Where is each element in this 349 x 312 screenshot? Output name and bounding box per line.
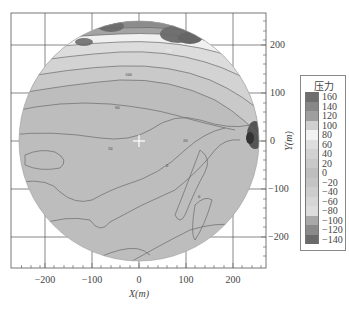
legend-swatch: [305, 130, 319, 140]
legend-swatch: [305, 216, 319, 226]
legend-item: −140: [305, 235, 345, 246]
legend-swatch: [305, 235, 319, 245]
legend-swatch: [305, 92, 319, 102]
svg-text:−200: −200: [268, 231, 289, 242]
legend-swatch: [305, 178, 319, 188]
legend-label: −140: [322, 234, 343, 245]
svg-text:0: 0: [137, 274, 142, 285]
legend-swatch: [305, 102, 319, 112]
legend-swatch: [305, 111, 319, 121]
x-axis-ticks: [22, 263, 262, 268]
legend-swatch: [305, 121, 319, 131]
y-axis-title: Y(m): [283, 131, 295, 151]
x-axis-title: X(m): [128, 288, 150, 300]
contour-plot: 160 100 60 20 20 0 0 −200: [0, 0, 349, 312]
svg-text:0: 0: [270, 135, 275, 146]
x-tick-labels: −200 −100 0 100 200: [35, 274, 241, 285]
legend-swatch: [305, 225, 319, 235]
legend-swatch: [305, 187, 319, 197]
legend-swatch: [305, 206, 319, 216]
svg-text:200: 200: [270, 39, 285, 50]
svg-text:200: 200: [226, 274, 241, 285]
legend-swatch: [305, 149, 319, 159]
legend-swatch: [305, 140, 319, 150]
legend-swatch: [305, 197, 319, 207]
svg-text:100: 100: [179, 274, 194, 285]
legend-swatch: [305, 168, 319, 178]
svg-text:−100: −100: [82, 274, 103, 285]
svg-text:20: 20: [108, 146, 113, 151]
y-axis-ticks: [261, 21, 266, 256]
legend: 压力 160140120100806040200−20−40−60−80−100…: [300, 75, 346, 251]
svg-text:−200: −200: [35, 274, 56, 285]
svg-text:60: 60: [115, 105, 120, 110]
svg-text:100: 100: [125, 72, 133, 77]
svg-text:20: 20: [183, 138, 188, 143]
svg-text:100: 100: [270, 87, 285, 98]
svg-text:−100: −100: [268, 183, 289, 194]
legend-swatch: [305, 159, 319, 169]
svg-text:160: 160: [165, 48, 173, 53]
